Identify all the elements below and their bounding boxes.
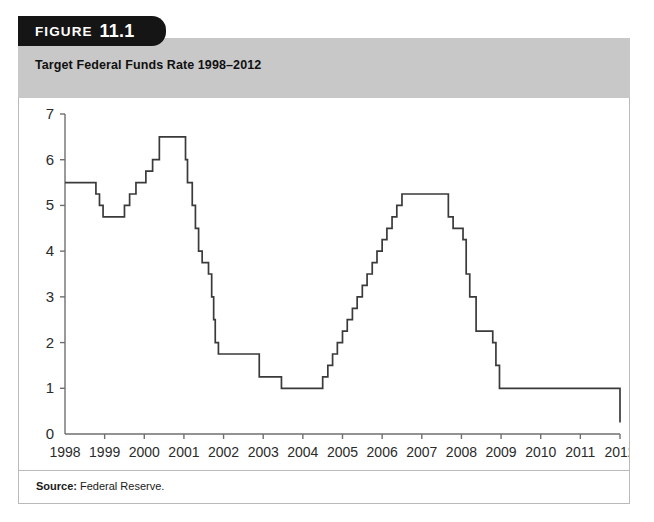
x-tick-label: 1999 [89,444,120,460]
x-tick-label: 2009 [485,444,516,460]
x-tick-label: 2007 [406,444,437,460]
x-tick-label: 2001 [168,444,199,460]
x-tick-label: 2003 [248,444,279,460]
figure-label: FIGURE [35,24,93,39]
x-tick-label: 2002 [208,444,239,460]
y-tick-label: 0 [46,425,54,442]
x-tick-label: 2005 [327,444,358,460]
figure-container: FIGURE 11.1 Target Federal Funds Rate 19… [18,16,630,504]
x-tick-label: 2004 [287,444,318,460]
source-label: Source: [36,480,77,492]
x-tick-label: 2006 [367,444,398,460]
source-line: Source:Federal Reserve. [36,480,164,492]
x-tick-label: 2010 [525,444,556,460]
y-tick-label: 7 [46,105,54,122]
series-line-target-federal-funds-rate [65,137,620,423]
figure-title: Target Federal Funds Rate 1998–2012 [35,58,261,72]
y-tick-label: 3 [46,288,54,305]
line-chart: 0123456719981999200020012002200320042005… [19,98,629,469]
x-tick-label: 1998 [49,444,80,460]
x-tick-label: 2008 [446,444,477,460]
figure-number-tab: FIGURE 11.1 [18,16,166,46]
figure-number: 11.1 [100,21,135,42]
x-tick-label: 2011 [565,444,595,460]
x-tick-label: 2000 [129,444,160,460]
y-tick-label: 5 [46,196,54,213]
y-tick-label: 1 [46,379,54,396]
y-tick-label: 6 [46,151,54,168]
y-tick-label: 2 [46,334,54,351]
chart-panel: 0123456719981999200020012002200320042005… [18,98,630,471]
source-footer: Source:Federal Reserve. [18,471,630,504]
x-tick-label: 2012 [604,444,629,460]
y-tick-label: 4 [46,242,54,259]
source-value: Federal Reserve. [80,480,164,492]
